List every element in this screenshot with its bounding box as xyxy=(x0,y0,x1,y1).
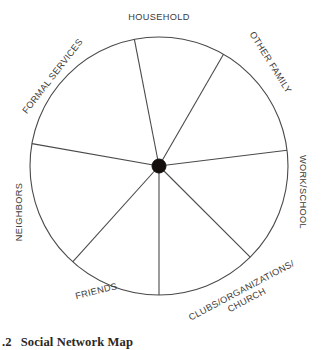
sector-label-line: HOUSEHOLD xyxy=(128,12,189,22)
sector-label-line: NEIGHBORS xyxy=(14,183,24,241)
social-network-map-figure: HOUSEHOLDOTHER FAMILYWORK/SCHOOLCLUBS/OR… xyxy=(0,0,324,350)
sector-label-work-school: WORK/SCHOOL xyxy=(298,155,308,229)
sector-label-household: HOUSEHOLD xyxy=(128,12,189,22)
sector-label-neighbors: NEIGHBORS xyxy=(14,183,24,241)
caption-number: .2 xyxy=(2,335,12,350)
social-network-map-diagram: HOUSEHOLDOTHER FAMILYWORK/SCHOOLCLUBS/OR… xyxy=(0,0,324,350)
center-hub-dot xyxy=(152,159,166,173)
sector-label-line: WORK/SCHOOL xyxy=(298,155,308,229)
wheel-group xyxy=(30,37,288,295)
sector-label-friends: FRIENDS xyxy=(74,281,118,301)
figure-caption: .2Social Network Map xyxy=(2,335,322,350)
caption-title: Social Network Map xyxy=(21,335,133,350)
sector-label-line: FRIENDS xyxy=(74,281,118,301)
